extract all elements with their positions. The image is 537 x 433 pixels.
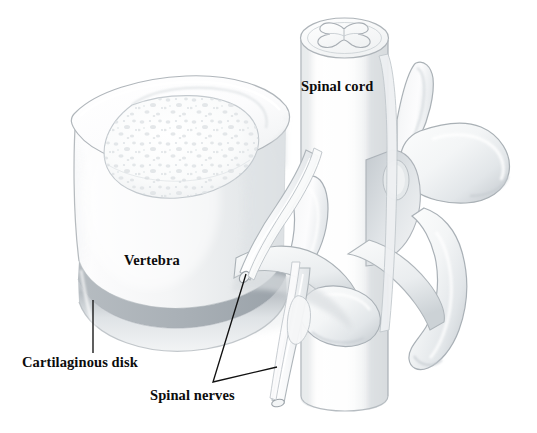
label-vertebra: Vertebra bbox=[124, 253, 180, 268]
label-cartilaginous-disk: Cartilaginous disk bbox=[22, 355, 138, 370]
label-spinal-nerves: Spinal nerves bbox=[150, 388, 235, 403]
label-spinal-cord: Spinal cord bbox=[301, 79, 373, 94]
anatomical-illustration-figure: Spinal cord Vertebra Cartilaginous disk … bbox=[0, 0, 537, 433]
